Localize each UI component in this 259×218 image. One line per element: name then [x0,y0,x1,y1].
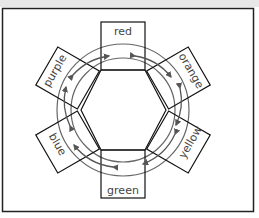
label-green: green [107,184,139,197]
arrow-yellow-green [143,134,175,164]
arrow-green-blue [74,145,113,167]
label-red: red [114,25,132,38]
arrow-orange-yellow [176,88,181,125]
arrow-blue-purple [64,87,70,126]
label-purple: purple [41,52,70,89]
label-blue: blue [46,131,69,158]
color-wheel-diagram: red orange yellow green blue purple [0,0,259,218]
inner-ring [71,58,175,162]
